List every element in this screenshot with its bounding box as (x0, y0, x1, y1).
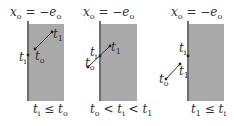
diagram-canvas: xo = −eo t1 to ti ti ≤ to xo = −eo t1 ti… (0, 0, 234, 126)
panel-2-header: xo = −eo (83, 5, 134, 21)
label-to: to (159, 72, 169, 88)
panel-2: xo = −eo t1 ti to to < ti < t1 (83, 5, 152, 118)
panel-3-condition: t1 ≤ ti (191, 102, 226, 118)
shaded-region (101, 24, 137, 101)
panel-2-condition: to < ti < t1 (90, 102, 152, 118)
label-ti: ti (179, 41, 187, 57)
panel-1: xo = −eo t1 to ti ti ≤ to (10, 5, 68, 118)
point-ti (99, 55, 102, 58)
panel-3: xo = −eo ti t1 to t1 ≤ ti (159, 5, 226, 118)
label-ti: ti (19, 50, 27, 66)
panel-3-header: xo = −eo (171, 5, 222, 21)
point-ti (27, 54, 30, 57)
panel-1-condition: ti ≤ to (33, 102, 68, 118)
panel-1-header: xo = −eo (10, 5, 61, 21)
label-ti: ti (90, 45, 98, 61)
shaded-region (189, 24, 224, 101)
point-ti (187, 55, 190, 58)
trajectory-segment (166, 64, 180, 79)
